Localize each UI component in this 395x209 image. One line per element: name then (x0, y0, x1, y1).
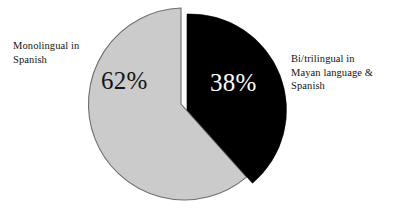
slice-label-bitrilingual: Bi/trilingual in Mayan language & Spanis… (291, 52, 395, 93)
slice-label-monolingual: Monolingual in Spanish (13, 39, 131, 66)
slice-value-monolingual: 62% (101, 68, 148, 93)
pie-chart-figure: Monolingual in Spanish Bi/trilingual in … (0, 0, 395, 209)
pie-chart-graphic (0, 0, 395, 209)
slice-value-bitrilingual: 38% (210, 70, 257, 95)
